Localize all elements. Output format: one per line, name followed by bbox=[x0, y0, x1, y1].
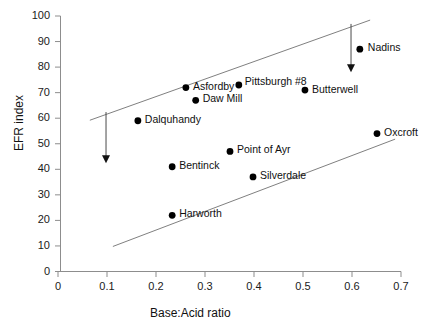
y-tick-label: 30 bbox=[16, 188, 50, 200]
x-axis-ticks bbox=[58, 272, 401, 278]
data-point-marker bbox=[250, 174, 257, 181]
data-point-label: Asfordby bbox=[193, 80, 234, 92]
x-tick-label: 0.5 bbox=[288, 280, 318, 292]
data-point-label: Silverdale bbox=[260, 169, 306, 181]
data-point-label: Daw Mill bbox=[203, 92, 243, 104]
y-tick-label: 80 bbox=[16, 60, 50, 72]
left-down-arrow-head bbox=[102, 155, 110, 163]
trend-lines-group bbox=[90, 20, 395, 246]
data-point-label: Nadins bbox=[368, 41, 401, 53]
x-tick-label: 0 bbox=[43, 280, 73, 292]
data-point-marker bbox=[302, 87, 309, 94]
x-tick-label: 0.3 bbox=[190, 280, 220, 292]
data-point-marker bbox=[235, 82, 242, 89]
data-point-marker bbox=[169, 163, 176, 170]
axes-group bbox=[55, 16, 401, 277]
y-tick-label: 20 bbox=[16, 213, 50, 225]
data-point-label: Pittsburgh #8 bbox=[245, 75, 307, 87]
x-tick-label: 0.2 bbox=[141, 280, 171, 292]
y-axis-title: EFR index bbox=[12, 78, 26, 168]
x-tick-label: 0.6 bbox=[337, 280, 367, 292]
y-tick-label: 100 bbox=[16, 9, 50, 21]
x-tick-label: 0.1 bbox=[92, 280, 122, 292]
data-point-marker bbox=[169, 212, 176, 219]
data-point-marker bbox=[192, 97, 199, 104]
data-point-marker bbox=[182, 84, 189, 91]
y-tick-label: 90 bbox=[16, 35, 50, 47]
data-point-label: Oxcroft bbox=[384, 126, 418, 138]
y-tick-label: 10 bbox=[16, 239, 50, 251]
data-points-group bbox=[134, 46, 380, 219]
x-tick-label: 0.4 bbox=[239, 280, 269, 292]
data-point-label: Point of Ayr bbox=[237, 143, 291, 155]
data-point-marker bbox=[374, 130, 381, 137]
y-axis-ticks bbox=[55, 16, 61, 272]
x-tick-label: 0.7 bbox=[386, 280, 416, 292]
data-point-marker bbox=[227, 148, 234, 155]
data-point-label: Butterwell bbox=[312, 83, 358, 95]
x-axis-title: Base:Acid ratio bbox=[150, 306, 231, 320]
right-down-arrow-head bbox=[347, 64, 355, 72]
data-point-marker bbox=[134, 117, 141, 124]
data-point-label: Dalquhandy bbox=[145, 113, 201, 125]
scatter-chart: 010203040506070809010000.10.20.30.40.50.… bbox=[0, 0, 429, 331]
data-point-label: Harworth bbox=[179, 207, 222, 219]
y-tick-label: 0 bbox=[16, 265, 50, 277]
data-point-label: Bentinck bbox=[179, 159, 219, 171]
upper-bound-line bbox=[90, 20, 370, 120]
data-point-marker bbox=[356, 46, 363, 53]
